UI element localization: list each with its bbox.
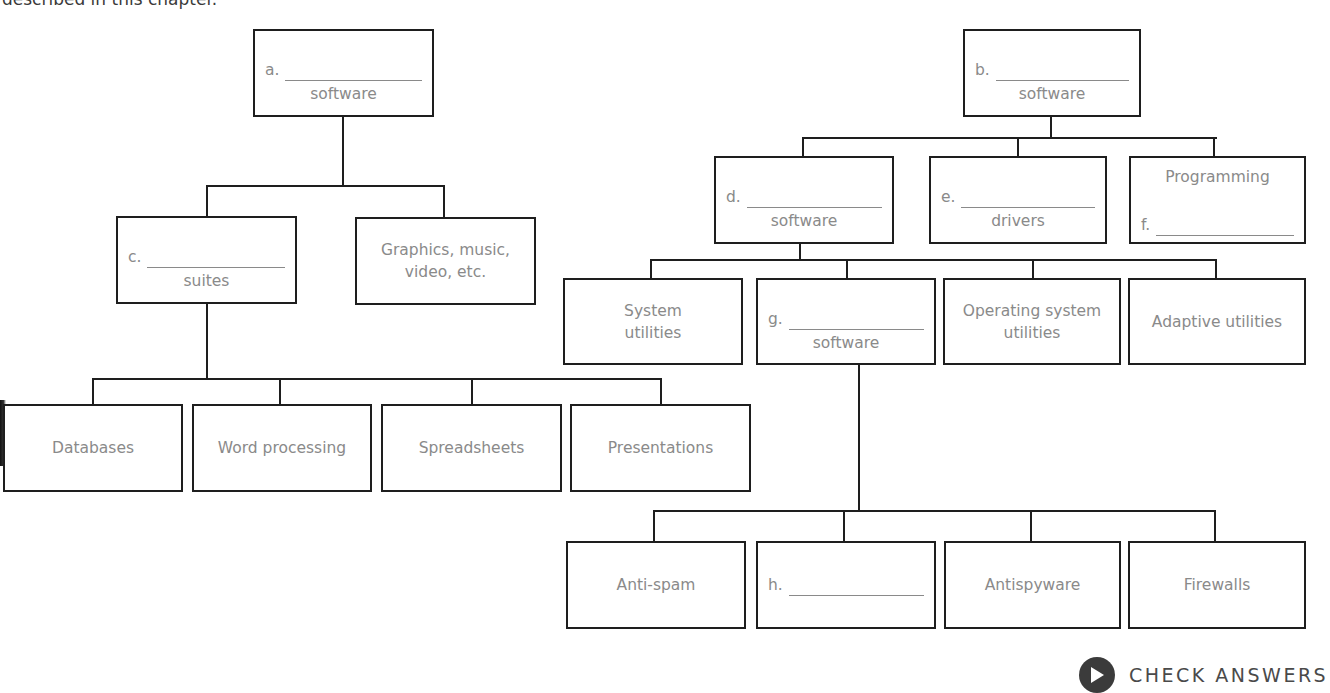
connector [653, 510, 1216, 512]
blank-f[interactable] [1156, 219, 1294, 236]
box-d-letter: d. [726, 186, 741, 208]
connector [846, 259, 848, 279]
box-b-letter: b. [975, 59, 990, 81]
blank-g[interactable] [789, 313, 924, 330]
box-g-sub: software [813, 332, 880, 354]
connector [206, 303, 208, 380]
box-a-sub: software [310, 83, 377, 105]
box-e-letter: e. [941, 186, 955, 208]
box-h-letter: h. [768, 574, 783, 596]
connector [92, 378, 662, 380]
connector [858, 363, 860, 512]
box-os-utilities-line2: utilities [1004, 322, 1061, 344]
box-adaptive-utilities: Adaptive utilities [1128, 278, 1306, 365]
box-system-utilities-line2: utilities [625, 322, 682, 344]
connector [799, 242, 801, 260]
box-adaptive-utilities-label: Adaptive utilities [1152, 311, 1282, 333]
blank-e[interactable] [961, 191, 1095, 208]
blank-b[interactable] [996, 64, 1129, 81]
blank-h[interactable] [789, 579, 924, 596]
box-b: b. software [963, 29, 1141, 117]
box-presentations: Presentations [570, 404, 751, 492]
connector [342, 116, 344, 186]
box-databases-label: Databases [52, 437, 134, 459]
box-spreadsheets-label: Spreadsheets [419, 437, 525, 459]
blank-c[interactable] [147, 251, 285, 268]
box-graphics-line2: video, etc. [405, 261, 486, 283]
box-firewalls: Firewalls [1128, 541, 1306, 629]
box-firewalls-label: Firewalls [1184, 574, 1251, 596]
box-h: h. [756, 541, 936, 629]
box-d-sub: software [771, 210, 838, 232]
box-system-utilities: System utilities [563, 278, 743, 365]
connector [843, 510, 845, 543]
connector [471, 378, 473, 405]
box-e-sub: drivers [991, 210, 1045, 232]
connector [1213, 137, 1215, 158]
box-presentations-label: Presentations [608, 437, 713, 459]
box-system-utilities-line1: System [624, 300, 682, 322]
blank-a[interactable] [285, 64, 422, 81]
connector [279, 378, 281, 405]
box-g-letter: g. [768, 308, 783, 330]
box-anti-spam-label: Anti-spam [617, 574, 696, 596]
box-d: d. software [714, 156, 894, 244]
box-word-processing-label: Word processing [218, 437, 346, 459]
box-databases: Databases [3, 404, 183, 492]
box-graphics-line1: Graphics, music, [381, 239, 510, 261]
box-a-letter: a. [265, 59, 279, 81]
box-os-utilities: Operating system utilities [943, 278, 1121, 365]
connector [92, 378, 94, 405]
blank-d[interactable] [747, 191, 882, 208]
connector [1032, 259, 1034, 279]
connector [1017, 137, 1019, 158]
box-programming-label: Programming [1165, 166, 1269, 188]
box-a: a. software [253, 29, 434, 117]
connector [802, 137, 1217, 139]
connector [1215, 259, 1217, 279]
connector [443, 185, 445, 218]
box-graphics: Graphics, music, video, etc. [355, 217, 536, 305]
connector [1050, 116, 1052, 139]
box-antispyware-label: Antispyware [985, 574, 1081, 596]
box-e: e. drivers [929, 156, 1107, 244]
box-antispyware: Antispyware [944, 541, 1121, 629]
play-icon [1079, 657, 1115, 693]
check-answers-label: CHECK ANSWERS [1129, 664, 1328, 686]
connector [650, 259, 1217, 261]
connector [650, 259, 652, 279]
box-f-letter: f. [1141, 214, 1150, 236]
box-b-sub: software [1019, 83, 1086, 105]
box-os-utilities-line1: Operating system [963, 300, 1101, 322]
connector [206, 185, 445, 187]
connector [206, 185, 208, 217]
box-c: c. suites [116, 216, 297, 304]
connector [1030, 510, 1032, 543]
box-spreadsheets: Spreadsheets [381, 404, 562, 492]
connector [653, 510, 655, 543]
box-programming: Programming f. [1129, 156, 1306, 244]
intro-text: described in this chapter. [2, 0, 217, 9]
box-c-letter: c. [128, 246, 141, 268]
check-answers-button[interactable]: CHECK ANSWERS [1079, 657, 1328, 693]
box-word-processing: Word processing [192, 404, 372, 492]
box-anti-spam: Anti-spam [566, 541, 746, 629]
connector [1214, 510, 1216, 543]
box-c-sub: suites [184, 270, 230, 292]
connector [802, 137, 804, 158]
box-g: g. software [756, 278, 936, 365]
connector [660, 378, 662, 405]
